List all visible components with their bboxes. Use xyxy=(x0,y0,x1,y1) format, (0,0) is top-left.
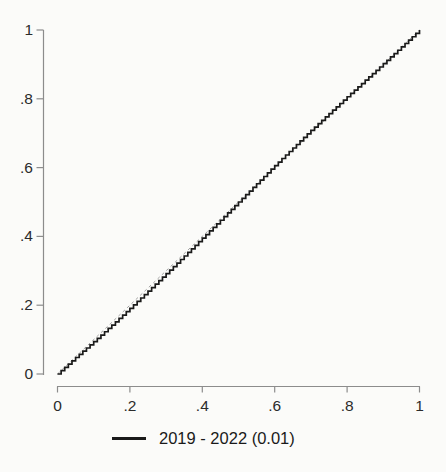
legend-label: 2019 - 2022 (0.01) xyxy=(159,429,295,448)
pp-plot: 0.2.4.6.81 0.2.4.6.81 2019 - 2022 (0.01) xyxy=(0,0,446,472)
legend: 2019 - 2022 (0.01) xyxy=(112,428,295,449)
chart-page: 0.2.4.6.81 0.2.4.6.81 2019 - 2022 (0.01) xyxy=(0,0,446,472)
plot-canvas xyxy=(0,0,446,472)
legend-line-swatch xyxy=(112,437,146,441)
